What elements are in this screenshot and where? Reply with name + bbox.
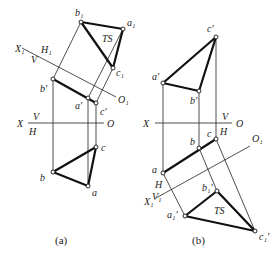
figure-b: c′ a′ b′ a b c a₁′ b₁′ c₁′ TS X O V H O₁… xyxy=(142,23,270,247)
descriptive-geometry-diagram: b₁ a₁ c₁ TS b′ a′ c′ b a c X O V H X₁ O₁… xyxy=(0,0,280,254)
label-c: c xyxy=(101,142,106,153)
label-bp-b: b′ xyxy=(190,95,198,106)
label-x-a: X xyxy=(16,118,24,129)
v-triangle-b xyxy=(163,37,216,91)
label-v1-a: V xyxy=(31,54,39,65)
label-ts-a: TS xyxy=(102,33,113,44)
label-o-b: O xyxy=(236,118,243,129)
true-shape-triangle-a xyxy=(81,22,123,68)
label-a1p: a₁′ xyxy=(167,209,178,220)
label-b1: b₁ xyxy=(75,7,83,18)
label-a1: a₁ xyxy=(127,17,135,28)
label-v-a: V xyxy=(33,111,41,122)
label-c-b: c xyxy=(207,128,212,139)
label-ap-b: a′ xyxy=(152,71,160,82)
label-cp: c′ xyxy=(100,106,107,117)
label-c1p: c₁′ xyxy=(259,231,270,242)
label-o-a: O xyxy=(107,118,114,129)
label-o1-a: O₁ xyxy=(118,94,129,105)
label-b-b: b xyxy=(190,136,195,147)
label-ap: a′ xyxy=(75,100,83,111)
label-a-b: a xyxy=(152,164,157,175)
h-triangle-a xyxy=(53,147,96,186)
label-ts-b: TS xyxy=(214,205,225,216)
label-o1-b: O₁ xyxy=(252,133,263,144)
caption-b: (b) xyxy=(192,234,205,247)
label-cp-b: c′ xyxy=(207,23,214,34)
projector-c1-a xyxy=(96,68,113,103)
label-v1-b: V₁ xyxy=(152,191,162,202)
label-b1p: b₁′ xyxy=(202,182,213,193)
label-a: a xyxy=(92,187,97,198)
label-h1-a: H₁ xyxy=(40,44,52,55)
label-v-b: V xyxy=(222,111,230,122)
label-h-a: H xyxy=(28,126,37,137)
figure-a: b₁ a₁ c₁ TS b′ a′ c′ b a c X O V H X₁ O₁… xyxy=(14,7,135,247)
label-x1-a: X₁ xyxy=(14,43,25,54)
label-h-b: H xyxy=(219,126,228,137)
label-bp: b′ xyxy=(40,83,48,94)
label-x-b: X xyxy=(142,118,150,129)
label-b: b xyxy=(40,172,45,183)
projector-c1-b xyxy=(216,139,255,231)
label-c1: c₁ xyxy=(116,67,124,78)
projector-b1-a xyxy=(53,22,81,79)
caption-a: (a) xyxy=(55,234,68,247)
label-h-aux-b: H xyxy=(154,179,163,190)
